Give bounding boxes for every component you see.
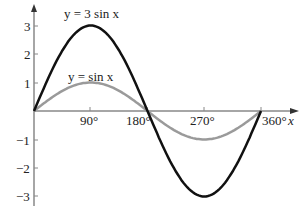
y-tick-label-2: 2 <box>24 48 31 61</box>
y-tick-label-3: 3 <box>24 20 31 33</box>
y-tick-label-neg2: −2 <box>16 162 30 175</box>
chart-canvas <box>0 0 307 216</box>
annotation-sin-x: y = sin x <box>68 70 113 83</box>
y-tick-label-neg3: −3 <box>16 190 30 203</box>
x-tick-label-270: 270° <box>190 114 215 127</box>
x-tick-label-180: 180° <box>126 114 151 127</box>
x-tick-label-90: 90° <box>80 114 98 127</box>
x-tick-label-360: 360° <box>262 114 287 127</box>
y-tick-label-1: 1 <box>24 77 31 90</box>
annotation-3-sin-x: y = 3 sin x <box>64 7 119 20</box>
y-tick-label-neg1: −1 <box>16 134 30 147</box>
x-axis-label: x <box>288 114 294 127</box>
y-axis-arrow-icon <box>31 4 37 12</box>
